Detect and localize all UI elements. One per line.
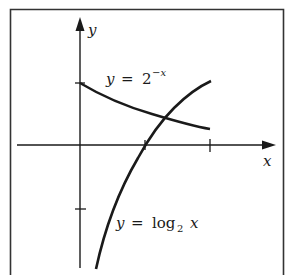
label-log-y: y [115, 214, 125, 232]
graph-figure: y x y = 2 −x y = log 2 x [0, 0, 285, 275]
label-log-subscript: 2 [177, 223, 183, 234]
curve-logarithm [96, 81, 211, 269]
y-axis-arrow-icon [76, 17, 85, 31]
graph-canvas: y x y = 2 −x y = log 2 x [0, 0, 285, 275]
label-exp-base: 2 [142, 70, 152, 88]
label-log-eq: = [131, 214, 144, 232]
label-exp-eq: = [121, 70, 134, 88]
x-axis-arrow-icon [262, 141, 276, 150]
y-axis-label: y [87, 21, 97, 39]
label-exp-y: y [105, 70, 115, 88]
label-log-var: x [190, 214, 199, 232]
label-exp-exponent: −x [152, 67, 166, 78]
label-log-fn: log [152, 214, 176, 232]
label-logarithm: y = log 2 x [115, 214, 199, 234]
x-axis-label: x [263, 152, 272, 170]
curve-exponential-decay [80, 83, 210, 129]
label-exponential: y = 2 −x [105, 67, 166, 88]
